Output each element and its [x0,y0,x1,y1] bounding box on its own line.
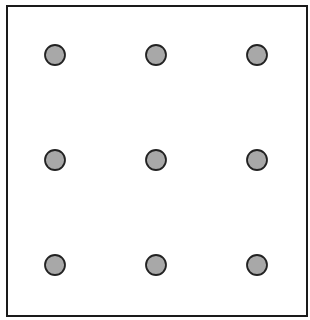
dot-grid [0,0,310,320]
grid-dot-r2-c2 [247,255,267,275]
grid-dot-r0-c0 [45,45,65,65]
grid-dot-r1-c0 [45,150,65,170]
grid-dot-r2-c1 [146,255,166,275]
grid-dot-r1-c1 [146,150,166,170]
grid-dot-r0-c1 [146,45,166,65]
grid-dot-r2-c0 [45,255,65,275]
grid-dot-r1-c2 [247,150,267,170]
grid-dot-r0-c2 [247,45,267,65]
